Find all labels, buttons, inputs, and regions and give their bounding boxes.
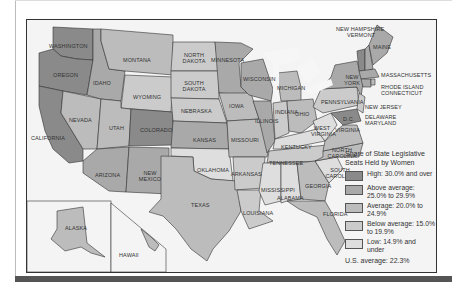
label-florida: FLORIDA bbox=[323, 211, 348, 217]
label-nevada: NEVADA bbox=[69, 117, 92, 123]
label-dc: D.C. bbox=[343, 116, 354, 122]
label-vermont: VERMONT bbox=[347, 32, 375, 38]
legend-item-low: Low: 14.9% and under bbox=[345, 238, 435, 253]
label-idaho: IDAHO bbox=[93, 80, 111, 86]
legend-label: Above average: 25.0% to 29.9% bbox=[367, 184, 435, 199]
label-washington: WASHINGTON bbox=[49, 43, 88, 49]
label-hawaii: HAWAII bbox=[119, 252, 139, 258]
label-texas: TEXAS bbox=[191, 202, 210, 208]
page-left-rule bbox=[15, 0, 16, 282]
us-average: U.S. average: 22.3% bbox=[345, 257, 435, 264]
state-connecticut bbox=[361, 79, 371, 87]
legend-title: Share of State Legislative Seats Held by… bbox=[345, 150, 435, 167]
label-illinois: ILLINOIS bbox=[255, 118, 278, 124]
legend-label: High: 30.0% and over bbox=[367, 170, 432, 178]
label-alaska: ALASKA bbox=[65, 225, 87, 231]
legend-swatch-low bbox=[345, 239, 363, 249]
legend-label: Average: 20.0% to 24.9% bbox=[367, 202, 435, 217]
state-rhode-island bbox=[371, 79, 375, 85]
label-arkansas: ARKANSAS bbox=[231, 171, 262, 177]
label-oklahoma: OKLAHOMA bbox=[197, 167, 229, 173]
map-legend: Share of State Legislative Seats Held by… bbox=[345, 150, 435, 264]
legend-item-above-average: Above average: 25.0% to 29.9% bbox=[345, 184, 435, 199]
legend-label: Below average: 15.0% to 19.9% bbox=[367, 220, 435, 235]
legend-swatch-high bbox=[345, 171, 363, 181]
label-west-virginia: WEST VIRGINIA bbox=[311, 125, 333, 137]
label-massachusetts: MASSACHUSETTS bbox=[381, 72, 431, 78]
label-new-jersey: NEW JERSEY bbox=[365, 104, 402, 110]
state-montana bbox=[101, 29, 173, 75]
legend-swatch-average bbox=[345, 203, 363, 213]
legend-item-high: High: 30.0% and over bbox=[345, 170, 435, 181]
label-oregon: OREGON bbox=[53, 72, 78, 78]
label-ohio: OHIO bbox=[295, 111, 309, 117]
label-louisiana: LOUISIANA bbox=[243, 210, 273, 216]
label-colorado: COLORADO bbox=[140, 127, 172, 133]
page-top-rule bbox=[15, 0, 452, 1]
label-alabama: ALABAMA bbox=[277, 195, 304, 201]
bottom-bar bbox=[15, 276, 452, 282]
legend-label: Low: 14.9% and under bbox=[367, 238, 435, 253]
label-pennsylvania: PENNSYLVANIA bbox=[321, 99, 364, 105]
label-michigan: MICHIGAN bbox=[277, 85, 305, 91]
label-montana: MONTANA bbox=[123, 57, 151, 63]
state-kansas bbox=[171, 121, 229, 149]
label-tennessee: TENNESSEE bbox=[269, 160, 303, 166]
legend-swatch-below-average bbox=[345, 221, 363, 231]
label-wyoming: WYOMING bbox=[133, 94, 161, 100]
label-maine: MAINE bbox=[373, 44, 391, 50]
label-south-dakota: SOUTH DAKOTA bbox=[181, 80, 207, 92]
label-georgia: GEORGIA bbox=[305, 183, 331, 189]
label-connecticut: CONNECTICUT bbox=[381, 90, 422, 96]
label-nebraska: NEBRASKA bbox=[181, 108, 212, 114]
label-utah: UTAH bbox=[109, 125, 124, 131]
state-massachusetts bbox=[359, 69, 379, 79]
label-mississippi: MISSISSIPPI bbox=[261, 187, 295, 193]
label-arizona: ARIZONA bbox=[95, 172, 120, 178]
label-wisconsin: WISCONSIN bbox=[243, 76, 276, 82]
label-missouri: MISSOURI bbox=[231, 137, 259, 143]
legend-item-average: Average: 20.0% to 24.9% bbox=[345, 202, 435, 217]
legend-swatch-above-average bbox=[345, 185, 363, 195]
label-kentucky: KENTUCKY bbox=[281, 144, 312, 150]
legend-item-below-average: Below average: 15.0% to 19.9% bbox=[345, 220, 435, 235]
label-minnesota: MINNESOTA bbox=[211, 57, 244, 63]
label-north-dakota: NORTH DAKOTA bbox=[181, 52, 207, 64]
label-new-york: NEW YORK bbox=[343, 74, 361, 86]
label-iowa: IOWA bbox=[229, 103, 244, 109]
label-california: CALIFORNIA bbox=[31, 135, 65, 141]
label-new-mexico: NEW MEXICO bbox=[137, 170, 163, 182]
label-kansas: KANSAS bbox=[193, 137, 216, 143]
label-maryland: MARYLAND bbox=[365, 120, 396, 126]
label-virginia: VIRGINIA bbox=[335, 127, 360, 133]
